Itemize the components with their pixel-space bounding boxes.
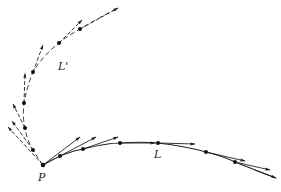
points-on-L-prime xyxy=(22,27,82,152)
tangent-arrow xyxy=(12,121,33,150)
label-L-prime: L' xyxy=(57,60,68,73)
curve-point xyxy=(57,41,61,45)
tangent-arrow xyxy=(80,8,118,29)
tangent-arrow xyxy=(255,170,276,178)
curve-point xyxy=(58,154,62,158)
curve-point xyxy=(22,101,26,105)
tangent-arrow xyxy=(24,73,25,103)
label-L: L xyxy=(153,148,161,161)
tangent-arrow xyxy=(206,152,245,161)
curve-point xyxy=(233,160,237,164)
curve-point xyxy=(23,126,27,130)
point-P-dot xyxy=(41,163,46,168)
tangent-arrow xyxy=(33,45,43,72)
curve-point xyxy=(31,70,35,74)
curve-point xyxy=(156,141,160,145)
tangent-vectors-L-prime xyxy=(8,8,118,165)
tangent-arrow xyxy=(59,20,82,43)
curve-point xyxy=(78,27,82,31)
curve-point xyxy=(118,141,122,145)
curve-point xyxy=(81,147,85,151)
label-P: P xyxy=(37,171,46,184)
curve-point xyxy=(31,148,35,152)
curves-diagram: P L L' xyxy=(0,0,281,192)
curve-point xyxy=(204,150,208,154)
